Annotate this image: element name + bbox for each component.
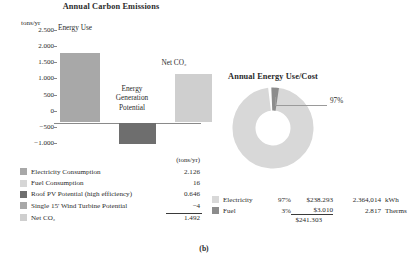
donut-chart (232, 87, 314, 169)
bar-chart-legend-table: (tons/yr) Electricity Consumption 2.126 … (20, 156, 202, 223)
y-tick-mark (54, 143, 57, 144)
legend-row-label: Roof PV Potential (high efficiency) (31, 190, 166, 198)
figure-panel-b: Annual Carbon Emissions tons/yr 2.500 2.… (0, 0, 408, 263)
donut-leader-line (275, 105, 327, 106)
y-tick-label: 500 (44, 91, 55, 99)
legend-swatch-icon (20, 168, 27, 175)
legend-swatch-icon (212, 207, 219, 214)
bar-label-energy-generation-potential: Energy Generation Potential (105, 84, 159, 112)
donut-legend-total-row: $241.303 (212, 216, 402, 226)
y-tick-label: 1.500 (38, 58, 54, 66)
legend-swatch-icon (20, 202, 27, 209)
legend-row-value: −4 (166, 202, 202, 210)
legend-units-header: (tons/yr) (20, 156, 202, 166)
donut-legend-amount: 2.364,014 (333, 196, 384, 204)
legend-row-label: Single 15' Wind Turbine Potential (31, 202, 166, 210)
donut-legend-name: Fuel (223, 207, 269, 215)
donut-legend-unit: Therms (384, 207, 407, 215)
y-tick-label: −500 (40, 123, 54, 131)
legend-row-value: 1.492 (166, 213, 202, 222)
bar-net-co2 (175, 74, 212, 122)
legend-swatch-icon (20, 180, 27, 187)
legend-row-electricity-consumption: Electricity Consumption 2.126 (20, 166, 202, 177)
donut-legend-percent: 3% (269, 207, 291, 215)
legend-row-wind-turbine-potential: Single 15' Wind Turbine Potential −4 (20, 200, 202, 211)
donut-chart-svg (232, 87, 314, 169)
legend-row-value: 2.126 (166, 168, 202, 176)
legend-swatch-icon (212, 196, 219, 203)
bar-label-net-co2: Net CO₂ (147, 58, 201, 67)
bar-label-energy-use: Energy Use (45, 23, 105, 32)
donut-legend-amount: 2.817 (333, 207, 384, 215)
spacer (212, 216, 280, 226)
bar-chart-title: Annual Carbon Emissions (44, 2, 178, 11)
bar-label-line-3: Potential (105, 103, 159, 112)
bar-label-line-1: Energy (105, 84, 159, 93)
donut-legend-total-cost: $241.303 (280, 216, 322, 226)
donut-legend-name: Electricity (223, 196, 269, 204)
legend-row-fuel-consumption: Fuel Consumption 16 (20, 177, 202, 188)
donut-chart-title: Annual Energy Use/Cost (213, 72, 333, 81)
bar-chart-y-axis: 2.500 2.000 1.500 1.000 500 0 −500 −1.00… (18, 30, 54, 143)
y-tick-label: 2.000 (38, 42, 54, 50)
y-tick-label: 1.000 (38, 74, 54, 82)
donut-legend-unit: kWh (384, 196, 402, 204)
legend-row-label: Net CO₂ (31, 214, 166, 222)
bar-label-line-2: Generation (105, 93, 159, 102)
legend-row-label: Electricity Consumption (31, 168, 166, 176)
legend-row-value: 0.646 (166, 190, 202, 198)
donut-legend-cost: $238.293 (291, 196, 333, 204)
donut-legend-percent: 97% (269, 196, 291, 204)
legend-row-roof-pv-potential: Roof PV Potential (high efficiency) 0.64… (20, 189, 202, 200)
figure-label: (b) (0, 244, 408, 253)
bar-energy-generation-potential (119, 123, 156, 144)
donut-legend-row-electricity: Electricity 97% $238.293 2.364,014 kWh (212, 194, 402, 205)
legend-row-net-co2: Net CO₂ 1.492 (20, 212, 202, 223)
donut-legend-row-fuel: Fuel 3% $3.010 2.817 Therms (212, 205, 402, 216)
legend-row-label: Fuel Consumption (31, 179, 166, 187)
donut-legend-table: Electricity 97% $238.293 2.364,014 kWh F… (212, 194, 402, 226)
legend-swatch-icon (20, 214, 27, 221)
donut-percent-annotation: 97% (330, 97, 343, 105)
legend-swatch-icon (20, 191, 27, 198)
bar-energy-use (60, 53, 100, 122)
donut-legend-cost: $3.010 (291, 206, 333, 215)
legend-row-value: 16 (166, 179, 202, 187)
y-tick-label: −1.000 (34, 139, 54, 147)
